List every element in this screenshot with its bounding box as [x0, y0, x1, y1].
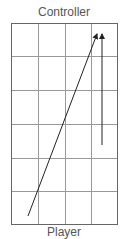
player-label: Player: [0, 225, 128, 239]
grid-diagram: [0, 0, 128, 239]
